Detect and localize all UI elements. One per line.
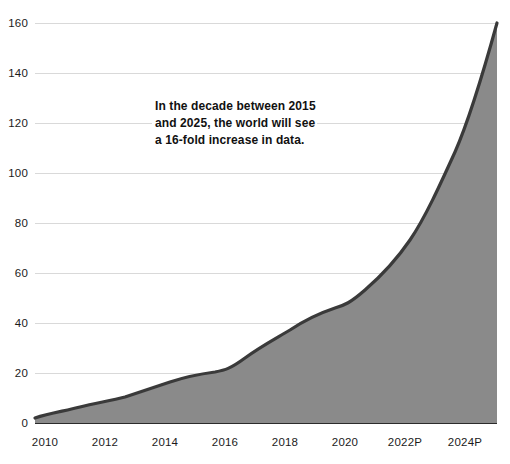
x-tick-2016: 2016 — [195, 436, 255, 449]
x-tick-2014: 2014 — [135, 436, 195, 449]
y-tick-120: 120 — [0, 117, 28, 129]
x-tick-2022P: 2022P — [375, 436, 435, 449]
x-tick-2024P: 2024P — [435, 436, 495, 449]
chart-plot-area — [0, 0, 510, 464]
y-tick-160: 160 — [0, 17, 28, 29]
area-chart: 160 140 120 100 80 60 40 20 0 2010 2012 … — [0, 0, 510, 464]
chart-annotation: In the decade between 2015 and 2025, the… — [152, 96, 317, 151]
x-tick-2012: 2012 — [75, 436, 135, 449]
x-tick-2018: 2018 — [255, 436, 315, 449]
annotation-line-2: and 2025, the world will see — [155, 115, 315, 132]
annotation-line-1: In the decade between 2015 — [155, 98, 315, 115]
y-tick-100: 100 — [0, 167, 28, 179]
annotation-line-3: a 16-fold increase in data. — [155, 132, 315, 149]
y-tick-20: 20 — [0, 367, 28, 379]
x-tick-2010: 2010 — [15, 436, 75, 449]
y-tick-80: 80 — [0, 217, 28, 229]
y-tick-140: 140 — [0, 67, 28, 79]
y-tick-60: 60 — [0, 267, 28, 279]
x-tick-2020: 2020 — [315, 436, 375, 449]
y-tick-0: 0 — [0, 417, 28, 429]
y-tick-40: 40 — [0, 317, 28, 329]
